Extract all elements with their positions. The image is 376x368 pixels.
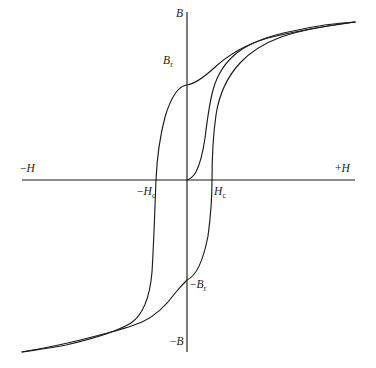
b-axis-label-text: B [176,7,183,19]
coercivity-positive-symbol: H [214,185,222,197]
remanence-positive-label: Br [163,55,173,67]
b-axis-label: B [176,8,183,20]
b-axis-negative-label: −B [170,336,184,348]
remanence-negative-symbol: B [197,278,204,290]
coercivity-negative-label: −Hc [137,186,155,198]
coercivity-positive-subscript: c [223,191,227,200]
descending-branch-curve [22,22,355,352]
coercivity-negative-symbol: H [144,185,152,197]
remanence-positive-symbol: B [163,54,170,66]
coercivity-negative-subscript: c [152,191,156,200]
hysteresis-plot-svg [0,0,376,368]
remanence-negative-label: −Br [190,279,206,291]
ascending-branch-curve [22,22,355,352]
h-axis-negative-label: −H [20,163,35,175]
h-axis-positive-label: +H [335,163,350,175]
hysteresis-figure: B Br −H +H −Hc Hc −Br −B [0,0,376,368]
remanence-negative-subscript: r [204,284,207,293]
b-negative-symbol: B [177,335,184,347]
h-positive-symbol: H [342,162,350,174]
h-negative-symbol: H [27,162,35,174]
coercivity-positive-label: Hc [214,186,226,198]
remanence-positive-subscript: r [170,60,173,69]
